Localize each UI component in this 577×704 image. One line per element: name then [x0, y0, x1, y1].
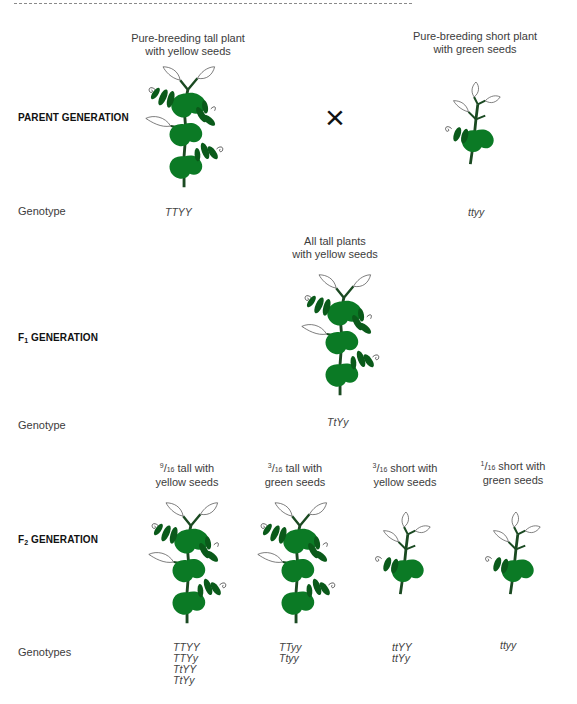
top-dashed-line	[14, 3, 412, 4]
parent-right-genotype: ttyy	[468, 207, 484, 218]
f1-generation-label: F1 GENERATION	[18, 332, 98, 344]
parent-left-caption: Pure-breeding tall plant with yellow see…	[118, 32, 258, 58]
tall-plant-icon	[142, 64, 228, 190]
f1-genotype-label: Genotype	[18, 419, 66, 431]
tall-plant-icon	[145, 500, 231, 626]
f2-group-3-caption: 3/16 short with yellow seeds	[360, 459, 450, 489]
f2-group-1-genotypes: TTYY TTYy TtYY TtYy	[173, 642, 200, 686]
f2-generation-label: F2 GENERATION	[18, 534, 98, 546]
f1-caption: All tall plants with yellow seeds	[275, 235, 395, 261]
f2-group-2-caption: 3/16 tall with green seeds	[250, 459, 340, 489]
f1-genotype: TtYy	[327, 417, 349, 428]
cross-symbol: ×	[325, 100, 345, 134]
parent-left-genotype: TTYY	[165, 207, 192, 218]
f2-genotypes-label: Genotypes	[18, 646, 71, 658]
f2-group-4-caption: 1/16 short with green seeds	[468, 457, 558, 487]
short-plant-icon	[482, 512, 548, 596]
f2-group-1-caption: 9/16 tall with yellow seeds	[142, 459, 232, 489]
short-plant-icon	[442, 82, 508, 166]
parent-generation-label: PARENT GENERATION	[18, 112, 129, 123]
tall-plant-icon	[298, 272, 384, 398]
short-plant-icon	[372, 512, 438, 596]
parent-genotype-label: Genotype	[18, 205, 66, 217]
f2-group-4-genotypes: ttyy	[500, 640, 516, 651]
tall-plant-icon	[254, 500, 340, 626]
f2-group-3-genotypes: ttYY ttYy	[392, 642, 412, 664]
f2-group-2-genotypes: TTyy Ttyy	[279, 642, 302, 664]
parent-right-caption: Pure-breeding short plant with green see…	[410, 30, 540, 56]
